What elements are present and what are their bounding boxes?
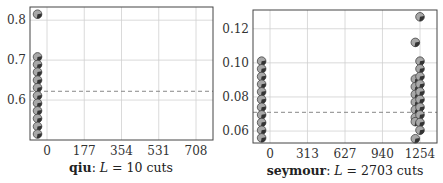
caption-unit: cuts	[393, 163, 423, 178]
chart-panel-seymour: 0.060.080.100.1203136279401254 seymour: …	[0, 0, 443, 183]
data-point-marker	[411, 134, 420, 143]
y-tick-label: 0.12	[222, 22, 249, 36]
data-point-marker	[416, 13, 425, 22]
y-tick-label: 0.10	[222, 56, 249, 70]
grid	[253, 10, 437, 143]
caption-sep: :	[326, 163, 334, 178]
x-tick-label: 940	[371, 147, 394, 161]
y-tick-label: 0.06	[222, 124, 249, 138]
caption-name: seymour	[267, 163, 327, 178]
scatter-plot-seymour: 0.060.080.100.1203136279401254	[0, 0, 443, 183]
caption-seymour: seymour: L = 2703 cuts	[267, 163, 424, 178]
x-tick-label: 313	[296, 147, 319, 161]
x-tick-label: 0	[266, 147, 274, 161]
y-tick-label: 0.08	[222, 90, 249, 104]
data-point-marker	[411, 38, 420, 47]
data-point-marker	[416, 126, 425, 135]
caption-value: 2703	[361, 163, 393, 178]
caption-var: L	[334, 163, 342, 178]
x-tick-label: 1254	[405, 147, 436, 161]
data-point-marker	[257, 134, 266, 143]
x-tick-label: 627	[334, 147, 357, 161]
caption-eq: =	[343, 163, 361, 178]
markers	[257, 13, 424, 144]
